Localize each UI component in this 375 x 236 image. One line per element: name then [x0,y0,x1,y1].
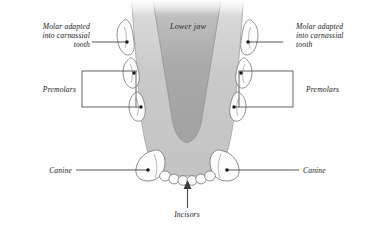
leader-dot-molar-right [246,40,249,43]
leader-dot-premolar2-right [232,105,235,108]
label-incisors: Incisors [147,210,227,219]
tooth-incisor-6 [205,171,216,181]
leader-dot-premolar1-left [132,71,135,74]
label-molar-right: Molar adapted into carnassial tooth [296,22,374,50]
label-premolars-left: Premolars [6,85,76,94]
tooth-molar-right [241,20,258,55]
label-molar-left: Molar adapted into carnassial tooth [6,22,90,50]
jaw-diagram: Lower jaw Molar adapted into carnassial … [0,0,375,236]
tooth-molar-left [117,20,134,55]
label-lower-jaw: Lower jaw [148,22,228,31]
leader-dot-molar-left [125,40,128,43]
leader-dot-premolar1-right [239,71,242,74]
top-fade-mask [118,0,258,14]
tooth-incisor-2 [169,174,179,184]
leader-dot-canine-left [146,168,150,172]
label-premolars-right: Premolars [306,85,372,94]
label-canine-right: Canine [303,166,365,175]
leader-dot-canine-right [225,168,229,172]
leader-dot-premolar2-left [139,105,142,108]
label-canine-left: Canine [10,166,72,175]
